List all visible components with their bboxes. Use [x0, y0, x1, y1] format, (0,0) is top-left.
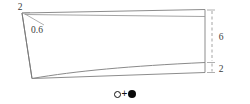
- label-right-upper: 6: [219, 32, 224, 42]
- inner-upper-surface-path: [25, 15, 206, 17]
- diagram-svg: 2 0.6 6 2: [0, 0, 250, 104]
- label-right-lower: 2: [219, 64, 224, 74]
- leading-edge-path: [22, 13, 32, 79]
- label-inner: 0.6: [31, 25, 43, 35]
- inner-lower-curve-path: [32, 63, 205, 79]
- leader-line-inner: [25, 14, 44, 25]
- label-top-left: 2: [18, 2, 23, 12]
- diagram-figure: 2 0.6 6 2: [0, 0, 250, 104]
